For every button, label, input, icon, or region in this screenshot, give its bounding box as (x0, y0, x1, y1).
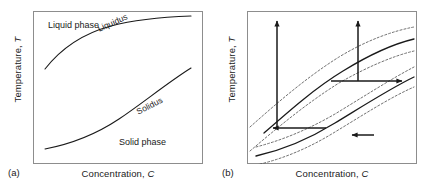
axis-label-x-text-b: Concentration, (296, 168, 362, 179)
panel-a: Liquid phase Solid phase Liquidus Solidu… (0, 0, 214, 189)
plot-curves-a (33, 11, 203, 164)
panel-tag-a: (a) (8, 167, 20, 178)
axis-label-x-b: Concentration, C (247, 168, 417, 179)
region-label-liquid-phase: Liquid phase (48, 20, 99, 30)
axis-label-x-var-b: C (361, 168, 368, 179)
phase-diagram-figure: Liquid phase Solid phase Liquidus Solidu… (0, 0, 428, 189)
axis-label-y-a: Temperature, T (12, 5, 23, 135)
axis-label-x-text-a: Concentration, (82, 168, 148, 179)
panel-b: Liquidus Solidus Temperature, T Concentr… (214, 0, 428, 189)
solidus-lower-bound-b (256, 87, 414, 164)
liquidus-lower-bound-b (250, 51, 414, 151)
region-label-solid-phase: Solid phase (119, 137, 166, 147)
axis-label-x-a: Concentration, C (33, 168, 203, 179)
axis-label-y-var-a: T (12, 37, 23, 43)
solidus-curve-a (45, 68, 191, 149)
axis-label-y-var-b: T (226, 37, 237, 43)
axis-label-y-b: Temperature, T (226, 5, 237, 135)
axis-label-y-text-a: Temperature, (12, 43, 23, 103)
solidus-upper-bound-b (256, 67, 414, 147)
liquidus-curve-b (264, 39, 414, 133)
liquidus-upper-bound-b (250, 27, 414, 127)
panel-tag-b: (b) (222, 167, 234, 178)
axis-label-x-var-a: C (147, 168, 154, 179)
solidus-curve-b (256, 77, 414, 156)
axis-label-y-text-b: Temperature, (226, 43, 237, 103)
plot-curves-b (247, 11, 417, 164)
